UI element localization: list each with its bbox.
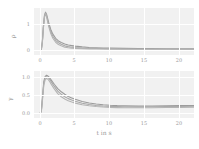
panel-gamma: γ 1.0 0.5 0.0 0 5 10 15 20 t in s <box>0 66 199 149</box>
xtick-gamma-10: 10 <box>101 120 117 126</box>
axes-gamma <box>34 71 194 118</box>
curve-rho-upper <box>40 12 194 50</box>
gridline-x-15 <box>144 8 145 55</box>
gridline-x-10 <box>109 8 110 55</box>
xtick-rho-0: 0 <box>32 57 48 63</box>
xtick-rho-5: 5 <box>66 57 82 63</box>
xtick-rho-10: 10 <box>101 57 117 63</box>
xtick-rho-20: 20 <box>171 57 187 63</box>
xtick-gamma-15: 15 <box>136 120 152 126</box>
gridline-y-1 <box>34 24 194 25</box>
axes-rho <box>34 8 194 55</box>
ytick-gamma-10: 1.0 <box>10 74 30 80</box>
ytick-rho-1: 1 <box>12 21 30 27</box>
xtick-gamma-5: 5 <box>66 120 82 126</box>
ytick-rho-0: 0 <box>12 47 30 53</box>
gridline-x-20 <box>179 8 180 55</box>
curve-rho-mid <box>40 13 194 50</box>
axis-label-rho: ρ <box>10 34 16 38</box>
axis-label-t: t in s <box>74 129 134 136</box>
gridline-y-0 <box>34 50 194 51</box>
xtick-rho-15: 15 <box>136 57 152 63</box>
figure: ρ 1 0 0 5 10 15 20 γ 1.0 0.5 0.0 0 5 <box>0 0 199 149</box>
ytick-gamma-05: 0.5 <box>10 92 30 98</box>
panel-rho: ρ 1 0 0 5 10 15 20 <box>0 0 199 66</box>
xtick-gamma-20: 20 <box>171 120 187 126</box>
curves-rho <box>34 8 194 55</box>
gridline-x-0 <box>40 8 41 55</box>
gridline-y-05 <box>34 95 194 96</box>
ytick-gamma-00: 0.0 <box>10 110 30 116</box>
gridline-y-00 <box>34 113 194 114</box>
xtick-gamma-0: 0 <box>32 120 48 126</box>
gridline-y-10 <box>34 77 194 78</box>
gridline-x-5 <box>74 8 75 55</box>
